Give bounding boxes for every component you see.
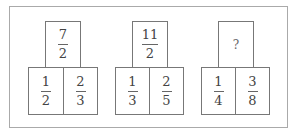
denominator: 4	[214, 94, 222, 108]
numerator: 3	[248, 75, 256, 89]
numerator: 1	[214, 75, 222, 89]
numerator: 2	[76, 75, 84, 89]
fraction: 3 8	[248, 75, 258, 108]
fraction-bar	[214, 91, 224, 92]
denominator: 5	[162, 94, 170, 108]
denominator: 2	[42, 94, 50, 108]
numerator: 2	[162, 75, 170, 89]
group-1-bottom-right-box: 2 3	[63, 67, 98, 115]
group-3-bottom-right-box: 3 8	[235, 67, 270, 115]
fraction: 2 3	[76, 75, 86, 108]
group-3-top-box: ?	[218, 21, 254, 68]
numerator: 1	[42, 75, 50, 89]
group-2-bottom-right-box: 2 5	[149, 67, 184, 115]
numerator: 7	[59, 28, 67, 42]
fraction-bar	[162, 91, 172, 92]
denominator: 3	[76, 94, 84, 108]
fraction-bar	[128, 91, 138, 92]
fraction: 7 2	[58, 28, 68, 61]
unknown-value: ?	[233, 38, 239, 52]
fraction-bar	[76, 91, 86, 92]
fraction-bar	[58, 44, 68, 45]
group-3-bottom-left-box: 1 4	[201, 67, 236, 115]
denominator: 2	[59, 47, 67, 61]
fraction: 11 2	[142, 28, 159, 61]
denominator: 8	[248, 94, 256, 108]
numerator: 1	[128, 75, 136, 89]
fraction-bar	[142, 44, 159, 45]
fraction-bar	[41, 91, 51, 92]
group-2-top-box: 11 2	[132, 21, 168, 68]
fraction: 1 2	[41, 75, 51, 108]
numerator: 11	[142, 28, 159, 42]
fraction-bar	[248, 91, 258, 92]
fraction: 2 5	[162, 75, 172, 108]
group-2-bottom-left-box: 1 3	[115, 67, 150, 115]
denominator: 2	[146, 47, 154, 61]
fraction: 1 4	[214, 75, 224, 108]
group-1-bottom-left-box: 1 2	[28, 67, 64, 115]
denominator: 3	[128, 94, 136, 108]
fraction: 1 3	[128, 75, 138, 108]
group-1-top-box: 7 2	[45, 21, 81, 68]
